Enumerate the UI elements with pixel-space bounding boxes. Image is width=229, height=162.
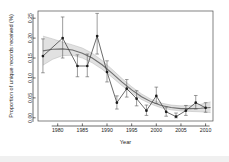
data-point [194, 101, 197, 104]
x-axis-tick-label: 2005 [175, 127, 187, 133]
x-axis-tick-label: 1995 [126, 127, 138, 133]
data-point [165, 110, 168, 113]
x-axis-title: Year [120, 139, 131, 145]
data-point [155, 95, 158, 98]
x-axis-tick-label: 1990 [101, 127, 113, 133]
y-axis-tick-label: 0.15 [27, 53, 33, 63]
data-point [125, 87, 128, 90]
y-axis-tick-label: 0.25 [27, 13, 33, 23]
data-point [61, 37, 64, 40]
data-point [76, 65, 79, 68]
observed-errorbars [41, 13, 207, 117]
x-axis-tick-label: 2010 [200, 127, 212, 133]
fitted-smooth-line [43, 49, 211, 109]
data-point [185, 109, 188, 112]
data-point [86, 65, 89, 68]
plot-frame [38, 11, 213, 121]
data-point [116, 101, 119, 104]
data-point [135, 97, 138, 100]
y-axis-tick-label: 0.20 [27, 33, 33, 43]
x-axis-tick-label: 2000 [151, 127, 163, 133]
x-axis-tick-label: 1985 [77, 127, 89, 133]
data-point [96, 35, 99, 38]
footer-band [0, 156, 229, 162]
figure-canvas: 1980198519901995200020052010Year0.000.05… [0, 0, 229, 162]
x-axis-tick-label: 1980 [52, 127, 64, 133]
y-axis-tick-label: 0.10 [27, 73, 33, 83]
data-point [204, 107, 207, 110]
data-point [175, 115, 178, 118]
data-point [42, 55, 45, 58]
y-axis-tick-label: 0.00 [27, 113, 33, 123]
data-point [106, 71, 109, 74]
y-axis-title: Proportion of unique records received (%… [8, 14, 14, 118]
y-axis-tick-label: 0.05 [27, 93, 33, 103]
chart-plot: 1980198519901995200020052010Year0.000.05… [0, 0, 229, 162]
data-point [145, 109, 148, 112]
